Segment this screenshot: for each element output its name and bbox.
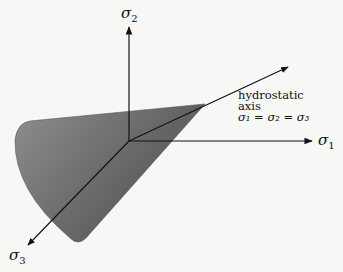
diagram-canvas <box>0 0 343 272</box>
yield-cone <box>15 104 205 242</box>
hydrostatic-equation: σ₁ = σ₂ = σ₃ <box>238 112 309 123</box>
sigma3-label: σ3 <box>9 248 26 266</box>
hydrostatic-axis-label: hydrostatic axis σ₁ = σ₂ = σ₃ <box>238 90 309 123</box>
sigma1-label: σ1 <box>318 133 335 151</box>
sigma2-label: σ2 <box>121 6 138 24</box>
